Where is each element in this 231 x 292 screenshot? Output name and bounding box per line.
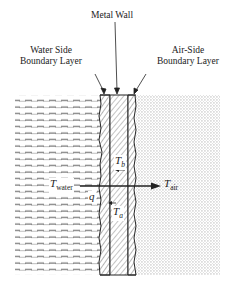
- t-a-label: Ta: [112, 206, 124, 221]
- water-boundary-layer: [99, 95, 110, 275]
- air-boundary-layer: [128, 95, 136, 275]
- q-label: q: [88, 191, 96, 202]
- t-b-label: Tb: [114, 155, 126, 170]
- label-pointers: [95, 22, 146, 94]
- t-b-sub: b: [121, 160, 125, 169]
- t-water-label: Twater: [49, 178, 74, 193]
- metal-wall: [110, 95, 128, 275]
- t-air-sub: air: [170, 183, 178, 192]
- t-a-sub: a: [119, 211, 123, 220]
- t-air-label: Tair: [164, 178, 178, 193]
- t-water-sub: water: [56, 183, 73, 192]
- heat-transfer-diagram: [0, 0, 231, 292]
